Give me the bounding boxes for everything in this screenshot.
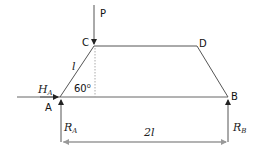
label-RA: RA [63, 121, 77, 135]
label-B: B [231, 91, 238, 102]
label-angle: 60⁰ [74, 83, 91, 94]
label-P: P [100, 8, 106, 19]
label-l: l [72, 60, 76, 73]
label-C: C [82, 37, 89, 48]
label-2l: 2l [143, 126, 155, 139]
frame-diagram: P C D A B l 60⁰ 2l HA RA RB [0, 0, 256, 156]
label-RB: RB [232, 121, 246, 135]
member-DB [197, 46, 228, 97]
label-D: D [199, 38, 207, 49]
label-HA: HA [37, 83, 53, 97]
label-A: A [45, 102, 52, 113]
